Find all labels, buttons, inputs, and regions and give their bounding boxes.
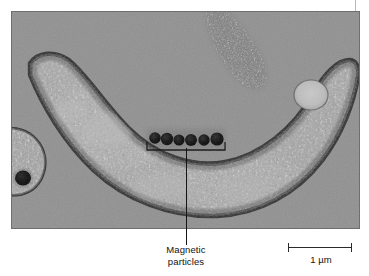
scale-bar-label: 1 µm — [286, 254, 356, 265]
magnetic-particles-label: Magnetic particles — [116, 244, 256, 267]
magnetic-particles-label-line2: particles — [116, 256, 256, 268]
film-grain-overlay — [11, 11, 360, 229]
micrograph-canvas — [11, 11, 360, 229]
crop-mark-icon — [355, 0, 356, 11]
magnetic-particles-label-line1: Magnetic — [116, 244, 256, 256]
scale-bar: 1 µm — [286, 243, 356, 265]
scale-bar-line — [288, 247, 352, 248]
micrograph-image — [11, 11, 360, 229]
scale-bar-cap-right — [351, 243, 352, 252]
figure-root: Magnetic particles 1 µm — [0, 0, 369, 276]
scale-bar-rule — [286, 243, 356, 251]
scale-bar-cap-left — [288, 243, 289, 252]
